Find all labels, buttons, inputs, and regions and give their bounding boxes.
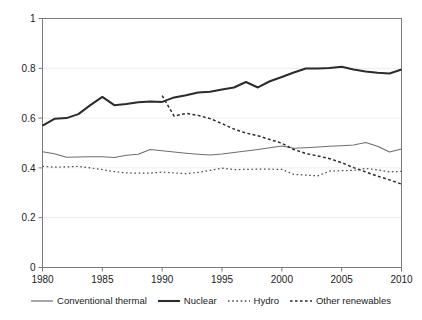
y-tick-label: 0.4 [22,163,36,174]
x-tick-label: 1985 [91,274,114,285]
y-tick-label: 0.8 [22,63,36,74]
y-tick-label: 1 [30,13,36,24]
x-tick-label: 1980 [31,274,54,285]
legend-item-hydro[interactable]: Hydro [228,296,279,306]
chart-legend: Conventional thermal Nuclear Hydro Other… [0,296,422,306]
legend-swatch-other-renewables [290,297,312,305]
legend-swatch-nuclear [158,297,180,305]
plot-frame [43,19,402,268]
x-tick-label: 2010 [390,274,413,285]
series-line-nuclear [43,67,402,126]
legend-item-nuclear[interactable]: Nuclear [158,296,217,306]
chart-canvas: 00.20.40.60.8119801985199019952000200520… [0,0,422,320]
x-tick-label: 1995 [211,274,234,285]
legend-item-other-renewables[interactable]: Other renewables [290,296,391,306]
series-line-conventional-thermal [43,143,402,158]
y-tick-label: 0.2 [22,212,36,223]
legend-label-nuclear: Nuclear [184,296,217,306]
line-chart-figure: 00.20.40.60.8119801985199019952000200520… [0,0,422,320]
legend-swatch-hydro [228,297,250,305]
y-tick-label: 0 [30,262,36,273]
legend-label-conventional-thermal: Conventional thermal [57,296,147,306]
legend-swatch-conventional-thermal [31,297,53,305]
x-tick-label: 1990 [151,274,174,285]
legend-item-conventional-thermal[interactable]: Conventional thermal [31,296,147,306]
y-tick-label: 0.6 [22,113,36,124]
legend-label-other-renewables: Other renewables [316,296,391,306]
legend-label-hydro: Hydro [254,296,279,306]
series-line-other-renewables [162,96,401,184]
x-tick-label: 2005 [331,274,354,285]
x-tick-label: 2000 [271,274,294,285]
